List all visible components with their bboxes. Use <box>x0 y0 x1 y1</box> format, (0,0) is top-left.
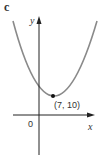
graph-diagram: c y x 0 (7, 10) <box>0 0 100 162</box>
vertex-point <box>51 94 55 98</box>
x-axis-arrow-icon <box>87 113 95 118</box>
origin-label: 0 <box>28 119 33 129</box>
vertex-label: (7, 10) <box>54 100 80 110</box>
x-axis-label: x <box>87 121 93 132</box>
y-axis-label: y <box>29 15 35 26</box>
panel-label: c <box>4 0 10 14</box>
parabola-curve <box>13 21 97 96</box>
y-axis-arrow-icon <box>37 16 42 24</box>
